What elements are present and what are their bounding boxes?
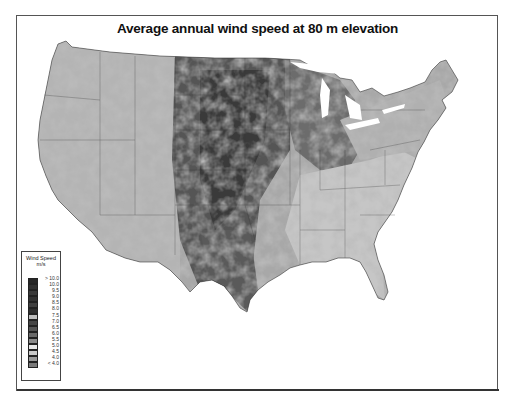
legend-swatches	[28, 278, 38, 368]
legend-units: m/s	[22, 261, 60, 267]
legend-title: Wind Speed m/s	[22, 255, 60, 267]
legend-label: < 4.0	[39, 360, 59, 366]
map-title: Average annual wind speed at 80 m elevat…	[0, 21, 515, 36]
legend-swatch	[28, 362, 38, 368]
legend-labels: > 10.010.09.59.08.58.07.57.06.56.05.55.0…	[39, 275, 59, 366]
us-wind-map	[0, 0, 515, 403]
wind-speed-legend: Wind Speed m/s > 10.010.09.59.08.58.07.5…	[21, 251, 61, 381]
